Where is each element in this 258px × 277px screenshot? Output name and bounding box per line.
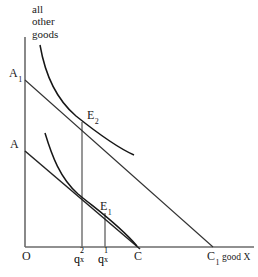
- qx1-label-indices: 1x: [104, 251, 111, 263]
- c1-label-base: C: [207, 249, 215, 263]
- qx1-label-sup: 1: [104, 246, 108, 255]
- indifference-curve-diagram: all other goods all other goods good X O…: [0, 0, 258, 277]
- qx1-label: q1x: [98, 251, 111, 267]
- c-label: C: [134, 250, 142, 263]
- qx2-label-sup: 2: [80, 246, 84, 255]
- origin-label: O: [22, 250, 31, 263]
- qx2-label: q2x: [74, 251, 87, 267]
- indifference-curve-2: [40, 45, 134, 155]
- qx2-label-sub: x: [80, 255, 84, 264]
- axes-group: [25, 37, 254, 247]
- e1-label: E1: [100, 200, 111, 216]
- a1-label-base: A: [9, 66, 18, 80]
- c1-label-sub: 1: [216, 258, 220, 267]
- e2-label: E2: [87, 109, 98, 125]
- indifference-curves-group: [40, 45, 137, 246]
- y-axis-label: all other goods all other goods: [32, 3, 58, 40]
- y-axis-label-line-goods: goods: [32, 28, 58, 40]
- qx2-label-indices: 2x: [80, 251, 87, 263]
- qx1-label-sub: x: [104, 255, 108, 264]
- a1-label: A1: [9, 67, 22, 83]
- a1-label-sub: 1: [18, 75, 22, 84]
- budget-line-2: [25, 80, 213, 247]
- e1-label-base: E: [100, 199, 107, 213]
- e2-label-sub: 2: [95, 117, 99, 126]
- x-axis-label: good X: [222, 252, 250, 263]
- y-axis-label-line-all: all: [32, 3, 58, 15]
- c1-label: C1: [207, 250, 219, 266]
- e2-label-base: E: [87, 108, 94, 122]
- a-label: A: [10, 138, 19, 151]
- e1-label-sub: 1: [108, 208, 112, 217]
- budget-lines-group: [25, 80, 213, 249]
- chart-canvas: [0, 0, 258, 277]
- y-axis-label-line-other: other: [32, 15, 58, 27]
